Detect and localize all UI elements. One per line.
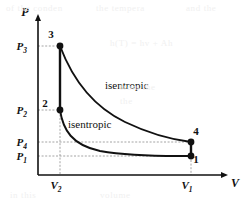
- subscript: 1: [189, 185, 193, 194]
- bleed-through-text: and the: [186, 3, 216, 13]
- y-tick-label-P2: P2: [17, 104, 28, 119]
- bleed-through-text: the tempera: [96, 3, 145, 13]
- subscript: 2: [57, 185, 62, 194]
- bleed-through-text: volume: [100, 190, 131, 200]
- y-tick-label-P1: P1: [17, 150, 27, 165]
- bleed-through-text: of the conden: [6, 3, 63, 13]
- x-axis-arrowhead: [221, 172, 228, 178]
- bleed-through-text: in this: [10, 190, 36, 200]
- state-point-label-3: 3: [48, 28, 54, 40]
- x-axis-title: V: [231, 176, 240, 190]
- pv-diagram-figure: of the condenthe temperaand theh(T) = hv…: [0, 0, 246, 206]
- x-tick-label-V2: V2: [50, 179, 61, 194]
- y-tick-label-P4: P4: [17, 136, 28, 151]
- process-label-isentropic-compression-2-1: isentropic: [68, 118, 111, 130]
- bleed-through-text: from the: [120, 82, 156, 92]
- subscript: 2: [22, 110, 27, 119]
- subscript: 3: [22, 46, 27, 55]
- process-curve-isentropic-compression-2-1: [60, 110, 191, 156]
- y-tick-label-P3: P3: [17, 40, 28, 55]
- y-axis-arrowhead: [35, 14, 41, 21]
- state-point-label-1: 1: [193, 153, 199, 165]
- y-axis-tick-labels-group: P3P2P4P1: [17, 40, 28, 165]
- x-tick-label-V1: V1: [181, 179, 192, 194]
- state-point-4: [188, 139, 195, 146]
- state-point-label-2: 2: [42, 97, 48, 109]
- state-point-2: [57, 107, 64, 114]
- bleed-through-text: h(T) = hv + Ah: [110, 38, 173, 48]
- subscript: 1: [23, 156, 27, 165]
- state-point-label-4: 4: [193, 125, 199, 137]
- bleed-through-text: the: [120, 96, 133, 106]
- state-point-3: [57, 43, 64, 50]
